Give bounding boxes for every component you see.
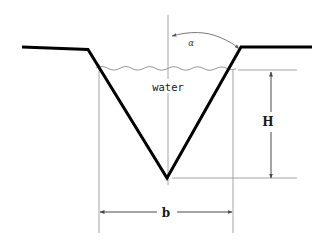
dimension-H-label: H [262,115,273,129]
dimension-H: H [259,72,277,178]
diagram-canvas: α H b water [0,0,329,249]
dimension-b-label: b [162,206,170,220]
water-surface-line [96,66,236,70]
angle-arc [172,33,239,49]
v-channel-cross-section-diagram: α H b water [0,0,329,249]
water-caption-group: water [138,79,198,93]
angle-alpha-label: α [188,38,194,48]
dimension-b: b [100,202,232,221]
water-label: water [152,81,184,93]
angle-alpha-annotation: α [172,33,239,49]
